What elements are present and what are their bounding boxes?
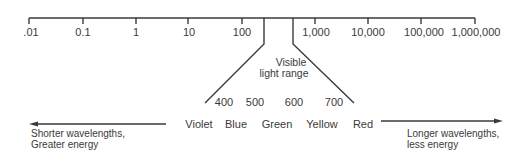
- right-arrowhead: [494, 119, 503, 124]
- tick-label: 1: [133, 26, 139, 38]
- color-label-blue: Blue: [225, 118, 247, 130]
- wavelength-label-400: 400: [215, 96, 233, 108]
- color-label-green: Green: [262, 118, 293, 130]
- wavelength-label-500: 500: [246, 96, 264, 108]
- visible-range-label-line2: light range: [259, 67, 308, 79]
- tick-label: 0.1: [75, 26, 90, 38]
- shorter-wavelengths-text-line1: Shorter wavelengths,: [31, 128, 125, 139]
- color-label-red: Red: [353, 118, 373, 130]
- shorter-wavelengths-text-line2: Greater energy: [31, 139, 98, 150]
- tick-label: 10,000: [351, 26, 385, 38]
- color-label-yellow: Yellow: [306, 118, 337, 130]
- wavelength-label-600: 600: [285, 96, 303, 108]
- wavelength-label-700: 700: [325, 96, 343, 108]
- color-label-violet: Violet: [185, 118, 212, 130]
- left-arrowhead: [29, 122, 38, 127]
- tick-label: 100: [233, 26, 251, 38]
- tick-label: 1,000: [302, 26, 330, 38]
- tick-label: 1,000,000: [452, 26, 501, 38]
- longer-wavelengths-text-line1: Longer wavelengths,: [407, 128, 499, 139]
- tick-label: 100,000: [404, 26, 444, 38]
- longer-wavelengths-text-line2: less energy: [407, 139, 458, 150]
- tick-label: .01: [23, 26, 38, 38]
- tick-label: 10: [183, 26, 195, 38]
